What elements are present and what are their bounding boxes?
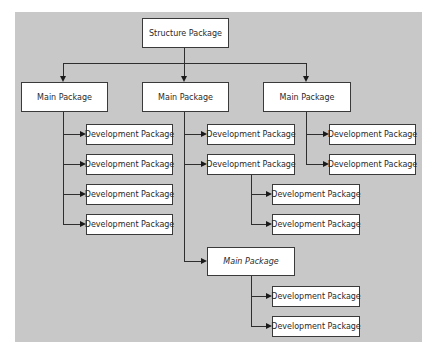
branch: [251, 194, 266, 195]
connector-horizontal-main: [63, 63, 307, 64]
branch: [251, 296, 266, 297]
development-package-node: Development Package: [329, 154, 416, 175]
branch: [251, 326, 266, 327]
development-package-node: Development Package: [86, 154, 173, 175]
branch: [63, 134, 80, 135]
trunk-main3: [306, 111, 307, 165]
main-package-node: Main Package: [263, 82, 351, 112]
branch: [306, 134, 323, 135]
branch: [63, 224, 80, 225]
development-package-node: Development Package: [207, 154, 295, 175]
connector-main3-in: [306, 63, 307, 76]
connector-main1-in: [63, 63, 64, 76]
main-package-node: Main Package: [21, 82, 108, 112]
development-package-node: Development Package: [329, 124, 416, 145]
branch: [251, 224, 266, 225]
main-package-node: Main Package: [142, 82, 229, 112]
development-package-node: Development Package: [272, 316, 360, 337]
branch: [184, 134, 201, 135]
branch: [63, 164, 80, 165]
development-package-node: Development Package: [207, 124, 295, 145]
branch: [184, 261, 201, 262]
development-package-node: Development Package: [86, 184, 173, 205]
trunk-main4: [251, 275, 252, 327]
connector-main2-in: [184, 63, 185, 76]
structure-package-node: Structure Package: [142, 18, 229, 48]
development-package-node: Development Package: [86, 124, 173, 145]
branch: [306, 164, 323, 165]
development-package-node: Development Package: [272, 214, 360, 235]
development-package-node: Development Package: [86, 214, 173, 235]
development-package-node: Development Package: [272, 286, 360, 307]
branch: [63, 194, 80, 195]
main-package-node: Main Package: [207, 247, 295, 276]
development-package-node: Development Package: [272, 184, 360, 205]
branch: [184, 164, 201, 165]
trunk-main1: [63, 111, 64, 225]
trunk-dev-sub: [251, 174, 252, 225]
connector-root-down: [184, 47, 185, 64]
